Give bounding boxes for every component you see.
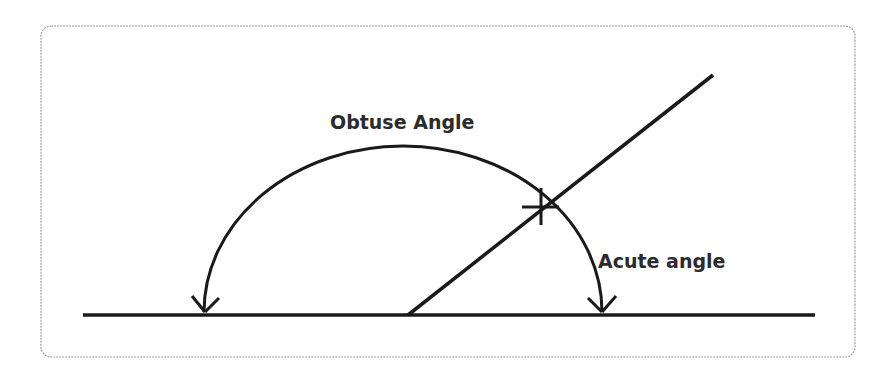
acute-angle-label: Acute angle bbox=[598, 250, 725, 272]
diagram-frame bbox=[41, 26, 855, 357]
angle-diagram: Obtuse Angle Acute angle bbox=[0, 0, 893, 375]
angle-arc bbox=[204, 146, 602, 312]
obtuse-angle-label: Obtuse Angle bbox=[330, 111, 474, 133]
